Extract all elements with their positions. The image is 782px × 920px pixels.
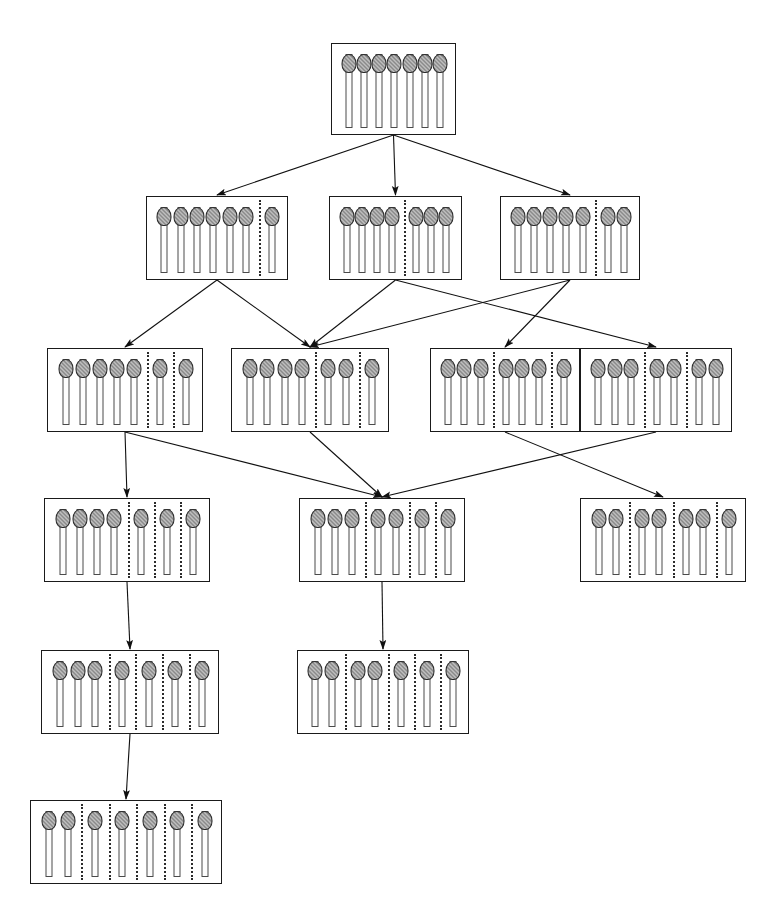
matchstick xyxy=(341,54,356,128)
matchstick xyxy=(439,207,454,273)
group-divider xyxy=(128,502,130,578)
group-divider xyxy=(180,502,182,578)
partition-node-inner xyxy=(300,499,464,581)
matchstick xyxy=(193,661,211,727)
matchstick-head xyxy=(556,359,571,378)
matchstick xyxy=(616,207,632,273)
matchstick-head xyxy=(277,359,292,378)
matchstick-head xyxy=(153,359,168,378)
group-divider xyxy=(147,352,149,428)
group-divider xyxy=(189,654,191,730)
edge-arrow xyxy=(125,280,217,347)
matchstick-head xyxy=(75,359,90,378)
matchstick-head xyxy=(321,359,336,378)
partition-node xyxy=(430,348,580,432)
matchstick-head xyxy=(115,811,130,830)
matchstick-head xyxy=(498,359,513,378)
matchstick-head xyxy=(678,509,693,528)
partition-node-inner xyxy=(42,651,218,733)
matchstick-head xyxy=(624,359,639,378)
matchstick xyxy=(339,207,354,273)
partition-node xyxy=(146,196,288,280)
matchstick xyxy=(364,359,381,425)
group-divider xyxy=(388,654,390,730)
matchstick-head xyxy=(515,359,530,378)
matchstick xyxy=(276,359,293,425)
edge-arrow xyxy=(382,582,383,649)
group-divider xyxy=(644,352,646,428)
matchstick-head xyxy=(242,359,257,378)
partition-node xyxy=(297,650,469,734)
matchstick-head xyxy=(591,509,606,528)
group-divider xyxy=(109,804,111,880)
matchstick-head xyxy=(338,359,353,378)
matchstick-head xyxy=(90,509,105,528)
matchstick xyxy=(387,54,402,128)
matchstick xyxy=(721,509,738,575)
matchstick-head xyxy=(294,359,309,378)
matchstick xyxy=(556,359,572,425)
matchstick-head xyxy=(179,359,194,378)
matchstick xyxy=(510,207,526,273)
matchstick-head xyxy=(402,54,417,73)
partition-node-inner xyxy=(330,197,461,279)
partition-node-inner xyxy=(501,197,639,279)
matchstick-head xyxy=(341,54,356,73)
matchstick xyxy=(354,207,369,273)
group-divider xyxy=(315,352,317,428)
matchstick xyxy=(238,207,254,273)
matchstick-head xyxy=(616,207,631,226)
matchstick-head xyxy=(142,811,157,830)
matchstick xyxy=(514,359,530,425)
matchstick-head xyxy=(141,661,156,680)
matchstick-head xyxy=(511,207,526,226)
matchstick-head xyxy=(173,207,188,226)
edge-layer xyxy=(0,0,782,920)
matchstick-head xyxy=(635,509,650,528)
matchstick xyxy=(126,359,143,425)
matchstick-head xyxy=(527,207,542,226)
matchstick-head xyxy=(195,661,210,680)
group-divider xyxy=(173,352,175,428)
matchstick-head xyxy=(652,509,667,528)
matchstick-head xyxy=(457,359,472,378)
partition-node-inner xyxy=(332,44,455,134)
matchstick xyxy=(158,509,175,575)
matchstick-head xyxy=(439,207,454,226)
matchstick-head xyxy=(666,359,681,378)
matchstick xyxy=(370,509,387,575)
matchstick-head xyxy=(424,207,439,226)
matchstick xyxy=(651,509,668,575)
matchstick-head xyxy=(222,207,237,226)
edge-arrow xyxy=(126,734,130,799)
matchstick-head xyxy=(133,509,148,528)
matchstick-head xyxy=(608,509,623,528)
matchstick-head xyxy=(325,661,340,680)
group-divider xyxy=(409,502,411,578)
matchstick xyxy=(707,359,724,425)
partition-node xyxy=(580,498,746,582)
matchstick xyxy=(607,509,624,575)
matchstick xyxy=(392,661,409,727)
matchstick xyxy=(413,509,430,575)
matchstick-head xyxy=(55,509,70,528)
matchstick-head xyxy=(543,207,558,226)
matchstick-head xyxy=(310,509,325,528)
matchstick xyxy=(649,359,666,425)
matchstick-head xyxy=(575,207,590,226)
matchstick xyxy=(140,661,158,727)
matchstick xyxy=(344,509,361,575)
matchstick xyxy=(108,359,125,425)
matchstick xyxy=(86,661,104,727)
partition-node xyxy=(44,498,210,582)
partition-lattice-diagram xyxy=(0,0,782,920)
matchstick-head xyxy=(371,509,386,528)
matchstick-head xyxy=(157,207,172,226)
matchstick xyxy=(178,359,195,425)
matchstick-head xyxy=(696,509,711,528)
partition-node xyxy=(329,196,462,280)
matchstick-head xyxy=(72,509,87,528)
matchstick xyxy=(106,509,123,575)
group-divider xyxy=(629,502,631,578)
matchstick-head xyxy=(127,359,142,378)
